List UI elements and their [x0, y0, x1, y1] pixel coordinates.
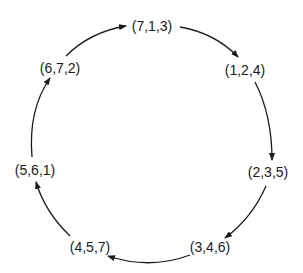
- node-label: (1,2,4): [225, 62, 265, 78]
- node-label: (6,7,2): [40, 60, 80, 76]
- edge-713-to-124: [180, 27, 238, 57]
- cycle-diagram: (7,1,3) (1,2,4) (2,3,5) (3,4,6) (4,5,7) …: [0, 0, 303, 273]
- edge-235-to-346: [225, 186, 266, 238]
- node-label: (2,3,5): [248, 164, 288, 180]
- node-label: (3,4,6): [190, 239, 230, 255]
- edge-672-to-713: [66, 26, 126, 56]
- edge-124-to-235: [255, 82, 272, 160]
- edge-346-to-457: [108, 255, 190, 263]
- node-label: (4,5,7): [70, 239, 110, 255]
- edge-457-to-561: [36, 182, 70, 236]
- node-label: (5,6,1): [15, 162, 55, 178]
- edge-561-to-672: [31, 78, 50, 157]
- node-label: (7,1,3): [132, 18, 172, 34]
